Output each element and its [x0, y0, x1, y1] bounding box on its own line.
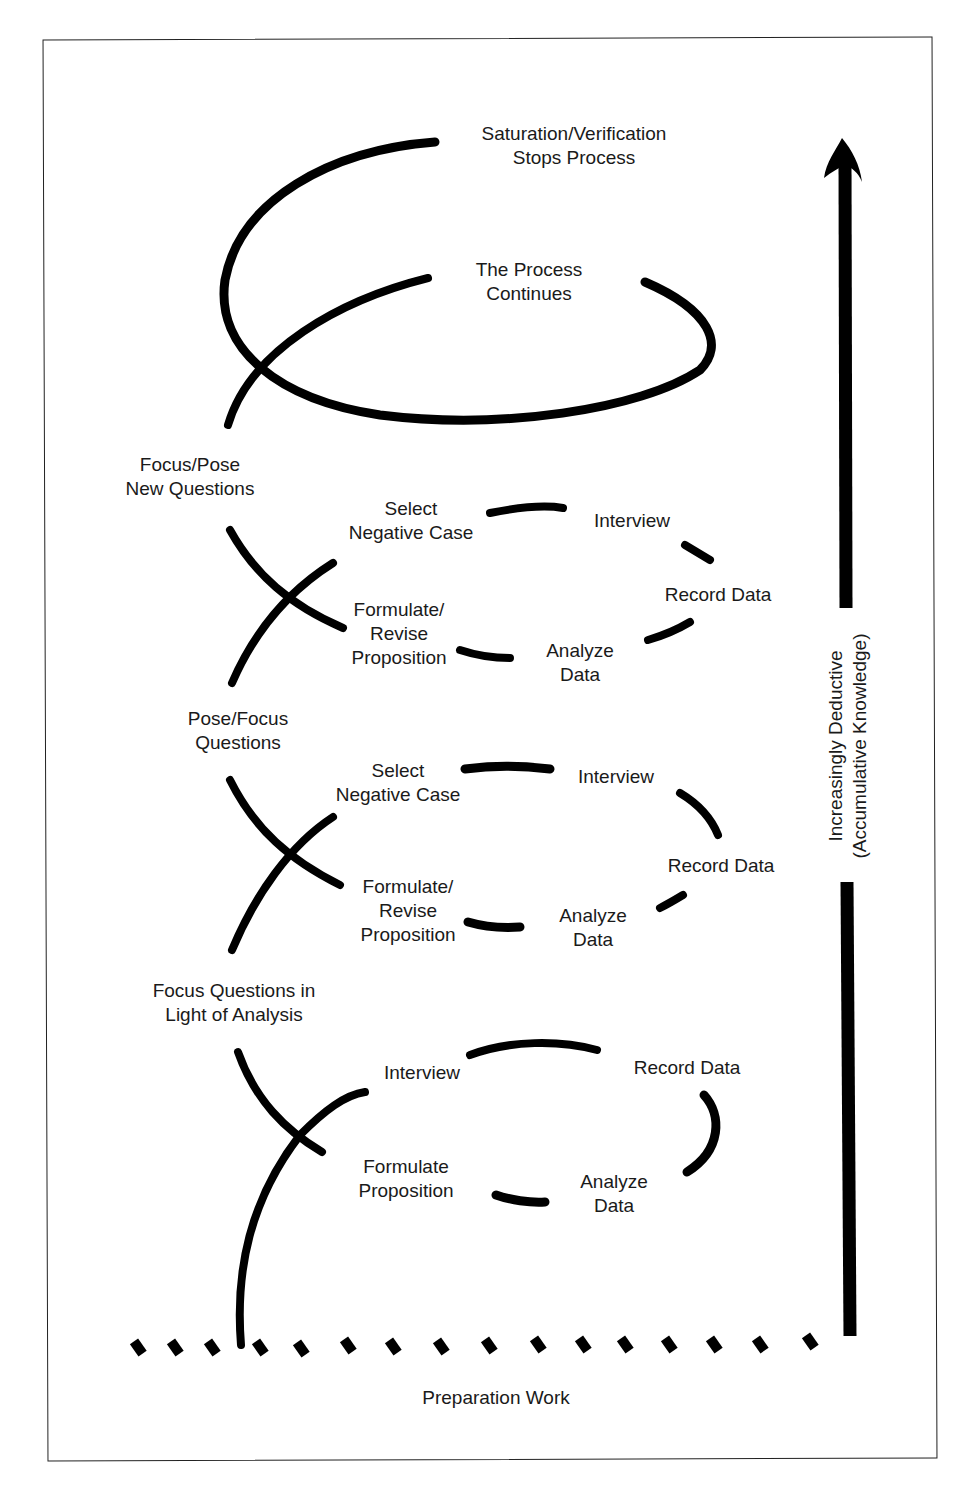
cycle2-step-select-negative-case: Select Negative Case	[336, 759, 461, 807]
cycle2-step-interview: Interview	[578, 765, 654, 789]
cycle2-entry-label: Pose/Focus Questions	[188, 707, 288, 755]
axis-label: Increasingly Deductive (Accumulative Kno…	[824, 626, 872, 866]
cycle2-cross-b	[232, 817, 333, 950]
cycle3-cross-b	[232, 563, 333, 683]
cycle3-arc-right	[685, 545, 710, 560]
cycle1-arc-top	[470, 1043, 597, 1055]
cycle3-cross-a	[230, 530, 343, 628]
cycle2-step-analyze-data: Analyze Data	[559, 904, 627, 952]
cycle1-rise	[240, 1092, 365, 1345]
cycle1-cross-a	[238, 1052, 322, 1152]
base-label: Preparation Work	[422, 1386, 570, 1410]
cycle1-step-record-data: Record Data	[634, 1056, 741, 1080]
cycle1-arc-right	[687, 1095, 716, 1172]
cycle2-arc-rb	[660, 895, 683, 908]
cycle3-arc-rb	[648, 622, 690, 640]
cycle2-cross-a	[230, 780, 340, 885]
stop-label: Saturation/Verification Stops Process	[482, 122, 667, 170]
cycle2-arc-bottom	[468, 922, 520, 927]
cycle1-entry-label: Focus Questions in Light of Analysis	[153, 979, 316, 1027]
cycle3-arc-bottom	[460, 650, 510, 658]
cycle2-arc-right	[680, 793, 718, 835]
axis-shaft-lower	[847, 882, 850, 1336]
cycle2-step-record-data: Record Data	[668, 854, 775, 878]
cycle3-step-select-negative-case: Select Negative Case	[349, 497, 474, 545]
cycle1-step-analyze-data: Analyze Data	[580, 1170, 648, 1218]
axis-shaft-upper	[845, 160, 846, 608]
cycle1-step-interview: Interview	[384, 1061, 460, 1085]
cycle2-step-formulate-revise: Formulate/ Revise Proposition	[360, 875, 455, 947]
cycle3-arc-top	[490, 507, 563, 513]
cycle3-step-interview: Interview	[594, 509, 670, 533]
cycle3-entry-label: Focus/Pose New Questions	[126, 453, 255, 501]
cycle2-arc-top	[465, 766, 550, 769]
cycle1-arc-bottom	[496, 1195, 545, 1202]
cycle3-step-analyze-data: Analyze Data	[546, 639, 614, 687]
continue-label: The Process Continues	[476, 258, 583, 306]
top-loop-outer-stroke	[224, 142, 711, 420]
cycle1-step-formulate-proposition: Formulate Proposition	[358, 1155, 453, 1203]
cycle3-step-record-data: Record Data	[665, 583, 772, 607]
preparation-dots	[130, 1332, 819, 1357]
cycle3-step-formulate-revise: Formulate/ Revise Proposition	[351, 598, 446, 670]
